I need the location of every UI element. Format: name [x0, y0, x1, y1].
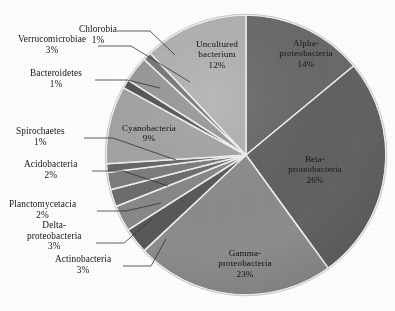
label-spirochaetes-pct: 1%: [16, 137, 65, 148]
label-uncultured-bacterium: Uncultured bacterium 12%: [177, 39, 257, 70]
label-delta-proteobacteria: Delta- proteobacteria 3%: [27, 220, 82, 252]
label-alpha-proteobacteria-pct: 14%: [298, 59, 315, 69]
label-planctomycetacia-pct: 2%: [9, 210, 76, 221]
label-uncultured-bacterium-line1: Uncultured: [196, 39, 238, 49]
label-cyanobacteria-pct: 9%: [143, 133, 155, 143]
label-gamma-proteobacteria-pct: 23%: [237, 269, 254, 279]
label-actinobacteria-name: Actinobacteria: [55, 254, 111, 264]
label-alpha-proteobacteria: Alpha- proteobacteria 14%: [268, 38, 344, 69]
label-gamma-proteobacteria: Gamma- proteobacteria 23%: [207, 248, 283, 279]
label-chlorobia-name: Chlorobia: [79, 24, 117, 34]
label-beta-proteobacteria: Beta- proteobacteria 26%: [277, 154, 353, 185]
label-planctomycetacia: Planctomycetacia 2%: [9, 199, 76, 220]
label-spirochaetes-name: Spirochaetes: [16, 126, 65, 136]
label-uncultured-bacterium-line2: bacterium: [198, 49, 235, 59]
label-alpha-proteobacteria-line1: Alpha-: [293, 38, 319, 48]
label-delta-proteobacteria-pct: 3%: [27, 241, 82, 252]
label-verrucomicrobiae-name: Verrucomicrobiae: [18, 34, 86, 44]
label-verrucomicrobiae-pct: 3%: [18, 45, 86, 56]
label-beta-proteobacteria-line1: Beta-: [305, 154, 325, 164]
label-gamma-proteobacteria-line2: proteobacteria: [218, 258, 271, 268]
label-delta-proteobacteria-line1: Delta-: [42, 220, 66, 230]
label-alpha-proteobacteria-line2: proteobacteria: [279, 48, 332, 58]
label-bacteroidetes: Bacteroidetes 1%: [30, 68, 82, 89]
label-cyanobacteria: Cyanobacteria 9%: [106, 123, 192, 144]
label-cyanobacteria-name: Cyanobacteria: [122, 123, 176, 133]
label-gamma-proteobacteria-line1: Gamma-: [229, 248, 261, 258]
label-acidobacteria-name: Acidobacteria: [24, 159, 77, 169]
label-actinobacteria: Actinobacteria 3%: [55, 254, 111, 275]
pie-chart-figure: Chlorobia 1% Verrucomicrobiae 3% Bactero…: [0, 0, 395, 311]
label-acidobacteria-pct: 2%: [24, 170, 77, 181]
label-verrucomicrobiae: Verrucomicrobiae 3%: [18, 34, 86, 55]
label-acidobacteria: Acidobacteria 2%: [24, 159, 77, 180]
label-bacteroidetes-name: Bacteroidetes: [30, 68, 82, 78]
label-bacteroidetes-pct: 1%: [30, 79, 82, 90]
label-planctomycetacia-name: Planctomycetacia: [9, 199, 76, 209]
label-delta-proteobacteria-line2: proteobacteria: [27, 231, 82, 242]
label-actinobacteria-pct: 3%: [55, 265, 111, 276]
label-uncultured-bacterium-pct: 12%: [209, 60, 226, 70]
label-spirochaetes: Spirochaetes 1%: [16, 126, 65, 147]
label-beta-proteobacteria-pct: 26%: [307, 175, 324, 185]
label-beta-proteobacteria-line2: proteobacteria: [288, 164, 341, 174]
